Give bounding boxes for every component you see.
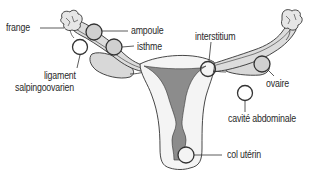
label-cavite-abdominale: cavité abdominale	[228, 113, 296, 124]
label-col-uterin: col utérin	[227, 149, 261, 160]
cavite-abdominale-marker	[238, 86, 253, 101]
ampoule-marker	[86, 24, 102, 40]
label-frange: frange	[6, 22, 30, 33]
label-ovaire: ovaire	[266, 78, 289, 89]
col-uterin-marker	[178, 147, 194, 163]
ovaire-leader	[268, 70, 274, 76]
right-fimbria	[281, 10, 302, 31]
label-interstitium: interstitium	[195, 31, 235, 42]
ligament-marker	[73, 40, 88, 55]
left-fimbria	[61, 10, 82, 30]
label-ligament-line2: salpingoovarien	[15, 82, 74, 93]
ovaire-marker	[254, 56, 270, 72]
ligament-leader	[77, 55, 80, 68]
label-ligament-line1: ligament	[44, 70, 76, 81]
isthme-marker	[106, 39, 122, 55]
uterus-anatomy-diagram: frange ampoule isthme ligament salpingoo…	[0, 0, 311, 177]
label-isthme: isthme	[137, 41, 162, 52]
isthme-leader	[122, 46, 134, 47]
label-ampoule: ampoule	[131, 25, 164, 36]
interstitium-leader	[209, 42, 211, 61]
